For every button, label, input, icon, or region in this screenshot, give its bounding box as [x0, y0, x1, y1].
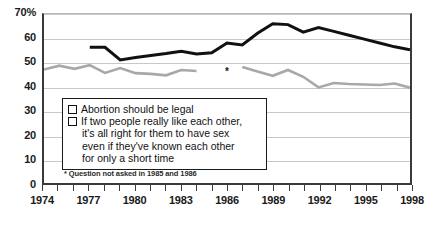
series-line-sex	[44, 65, 197, 75]
chart-legend: Abortion should be legal If two people r…	[62, 98, 267, 170]
x-axis-tick-label: 1995	[354, 194, 378, 206]
x-axis-tick	[181, 185, 182, 191]
x-axis-tick-label: 1977	[76, 194, 100, 206]
x-axis-tick	[135, 185, 136, 191]
x-axis-tick	[242, 185, 243, 191]
x-axis-tick	[350, 185, 351, 191]
x-axis-tick	[119, 185, 120, 191]
x-axis-tick	[57, 185, 58, 191]
y-axis-tick-label: 0	[0, 178, 36, 190]
x-axis-tick	[381, 185, 382, 191]
x-axis-tick	[412, 185, 413, 191]
legend-label-sex-line2: it's all right for them to have sex	[82, 127, 261, 139]
x-axis-tick	[289, 185, 290, 191]
x-axis-tick-label: 1989	[261, 194, 285, 206]
x-axis-tick-label: 1980	[123, 194, 147, 206]
x-axis-tick	[73, 185, 74, 191]
x-axis-tick	[150, 185, 151, 191]
chart-footnote: * Question not asked in 1985 and 1986	[64, 169, 197, 178]
legend-label-sex-line3: even if they've known each other	[82, 140, 261, 152]
x-axis-tick	[397, 185, 398, 191]
x-axis-labels: 197419771980198319861989199219951998	[0, 194, 434, 210]
x-axis-tick	[212, 185, 213, 191]
legend-item-abortion: Abortion should be legal	[68, 103, 261, 115]
legend-item-sex: If two people really like each other,	[68, 115, 261, 127]
y-axis-tick-label: 60	[0, 31, 36, 43]
x-axis-tick	[304, 185, 305, 191]
series-line-abortion	[90, 24, 410, 60]
x-axis-tick-label: 1974	[30, 194, 54, 206]
x-axis-tick-label: 1986	[215, 194, 239, 206]
x-axis-tick-label: 1983	[169, 194, 193, 206]
x-axis-tick	[320, 185, 321, 191]
y-axis-tick-label: 20	[0, 129, 36, 141]
x-axis-tick	[42, 185, 43, 191]
legend-swatch-black	[68, 105, 77, 114]
x-axis-tick	[88, 185, 89, 191]
legend-label-sex-line4: for only a short time	[82, 152, 261, 164]
x-axis-tick	[366, 185, 367, 191]
x-axis-tick	[335, 185, 336, 191]
x-axis-tick	[196, 185, 197, 191]
x-axis-tick-label: 1992	[308, 194, 332, 206]
x-axis-ticks	[42, 185, 412, 192]
x-axis-tick	[273, 185, 274, 191]
x-axis-tick	[258, 185, 259, 191]
y-axis-tick-label: 10	[0, 153, 36, 165]
y-axis-tick-label: 30	[0, 104, 36, 116]
y-axis-tick-label: 40	[0, 80, 36, 92]
chart-container: 70%6050403020100 * 197419771980198319861…	[0, 0, 434, 225]
legend-label-sex: If two people really like each other,	[81, 115, 242, 127]
series-line-sex	[242, 67, 410, 88]
x-axis-tick	[165, 185, 166, 191]
x-axis-tick	[104, 185, 105, 191]
legend-swatch-gray	[68, 117, 77, 126]
y-axis-tick-label: 50	[0, 55, 36, 67]
y-axis-tick-label: 70%	[0, 6, 36, 18]
x-axis-tick-label: 1998	[400, 194, 424, 206]
x-axis-tick	[227, 185, 228, 191]
gap-asterisk-annotation: *	[225, 67, 229, 77]
legend-label-abortion: Abortion should be legal	[81, 103, 194, 115]
